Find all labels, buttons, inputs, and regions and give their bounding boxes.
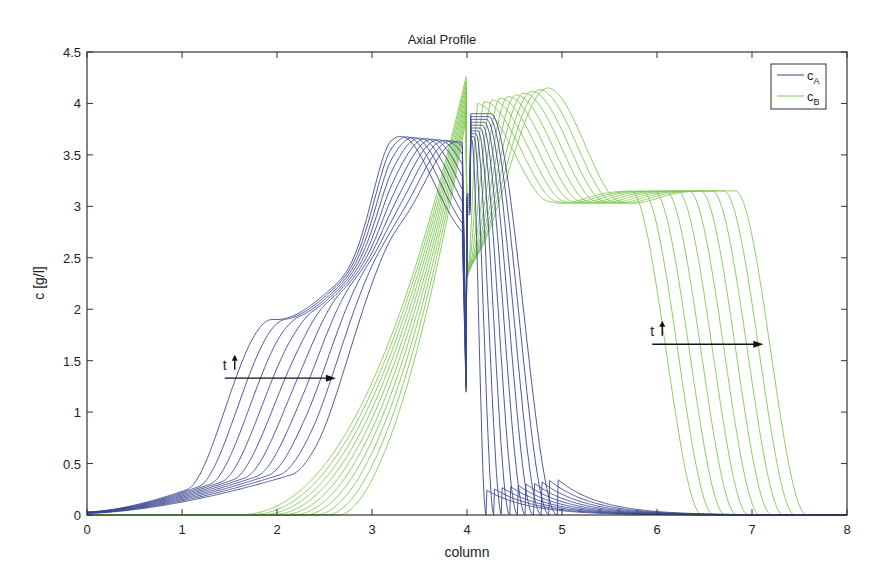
profile-curve [87,95,847,515]
x-tick-label: 6 [653,522,660,537]
profile-curve [87,91,847,515]
profile-curve [87,77,847,515]
up-arrow-head-icon [232,355,238,361]
x-tick-label: 3 [368,522,375,537]
y-tick-label: 0 [74,508,81,523]
x-tick-label: 2 [273,522,280,537]
x-tick-label: 1 [178,522,185,537]
profile-curve [87,86,847,515]
up-arrow-head-icon [659,321,665,327]
profile-curve [87,88,847,515]
x-tick-label: 7 [748,522,755,537]
y-tick-label: 1 [74,405,81,420]
y-tick-label: 4 [74,96,81,111]
legend: cA cB [771,64,826,109]
x-tick-label: 4 [463,522,470,537]
y-tick-label: 3.5 [63,148,81,163]
y-tick-label: 0.5 [63,457,81,472]
series-c-b [87,77,847,515]
y-tick-label: 1.5 [63,354,81,369]
y-tick-label: 3 [74,199,81,214]
profile-curve [87,90,847,515]
y-tick-label: 2 [74,302,81,317]
x-tick-label: 0 [83,522,90,537]
axial-profile-chart: Axial Profile 012345678 00.511.522.533.5… [0,0,878,588]
profile-curve [87,114,847,515]
chart-title: Axial Profile [408,32,477,47]
profile-curve [87,81,847,515]
profile-curve [87,95,847,515]
series-c-a [87,114,847,515]
x-tick-label: 5 [558,522,565,537]
x-axis-ticks: 012345678 [83,52,850,537]
y-tick-label: 2.5 [63,251,81,266]
y-axis-label: c [g/l] [31,266,47,299]
profile-curve [87,117,847,515]
profile-curve [87,92,847,516]
time-label: t [650,323,654,339]
y-tick-label: 4.5 [63,45,81,60]
x-tick-label: 8 [843,522,850,537]
y-axis-ticks: 00.511.522.533.544.5 [63,45,847,523]
plot-area [87,77,847,515]
profile-curve [87,93,847,515]
time-arrows: tt [223,321,764,382]
time-label: t [223,357,227,373]
x-axis-label: column [444,544,489,560]
